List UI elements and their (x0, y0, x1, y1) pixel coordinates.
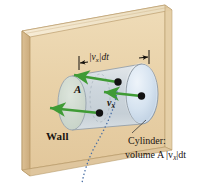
area-label: A (74, 84, 81, 95)
caption-line-2: volume A |vx|dt (125, 150, 186, 162)
wall-label: Wall (46, 131, 69, 142)
dimension-label-suffix: |dt (99, 52, 109, 62)
physics-diagram-figure: Wall A vx |vx|dt Cylinder: volume A |vx|… (0, 0, 206, 183)
velocity-label: vx (107, 98, 115, 110)
velocity-label-subscript: x (111, 102, 115, 110)
dimension-label: |vx|dt (89, 53, 109, 63)
particle-dot-center (138, 92, 145, 99)
caption-line-2-suffix: |dt (176, 149, 186, 160)
cylinder-left-cap-area-A (58, 76, 86, 130)
particle-dot-top (114, 78, 121, 85)
wall-right-edge (165, 5, 172, 150)
particle-dot-bottom (96, 109, 103, 116)
dimension-label-prefix: |v (89, 52, 96, 62)
wall-left-face (22, 31, 30, 176)
caption-line-1: Cylinder: (128, 136, 166, 146)
caption-line-2-prefix: volume A |v (125, 149, 173, 160)
